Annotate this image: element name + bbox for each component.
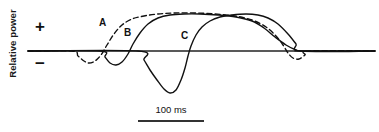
curve-a-dashed: [28, 13, 375, 63]
curve-label-a: A: [99, 18, 106, 28]
curve-b-solid: [28, 14, 375, 65]
curve-c-solid: [28, 14, 375, 93]
curve-label-b: B: [124, 28, 131, 38]
scale-bar-label: 100 ms: [138, 104, 204, 115]
figure-container: Relative power + − A B C 100 ms: [0, 0, 379, 132]
curve-label-c: C: [181, 31, 188, 41]
scale-bar-line: [138, 120, 204, 122]
